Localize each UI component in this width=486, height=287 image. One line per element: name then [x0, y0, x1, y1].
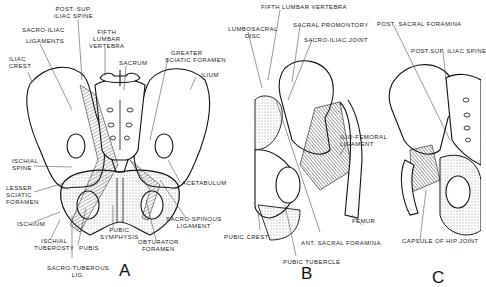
- label-line: SYMPHYSIS: [100, 234, 139, 241]
- label-line: LUMBOSACRAL: [228, 26, 278, 33]
- label-femur: FEMUR: [352, 218, 375, 225]
- label-pubic-crest: PUBIC CREST: [224, 234, 269, 241]
- label-iliac-crest: ILIAC CREST: [9, 56, 31, 70]
- label-line: ILIAC: [9, 56, 31, 63]
- label-line: ISCHIAL: [12, 158, 38, 165]
- label-line: LUMBAR: [89, 36, 124, 43]
- label-ilio-femoral-ligament: ILIO-FEMORAL LIGAMENT: [340, 134, 387, 148]
- label-sacro-iliac-joint: SACRO-ILIAC JOINT: [304, 37, 368, 44]
- label-post-sup-iliac-spine-c: POST.SUP. ILIAC SPINE: [411, 48, 486, 55]
- label-line: FORAMEN: [138, 246, 179, 253]
- label-lesser-sciatic-foramen: LESSER SCIATIC FORAMEN: [6, 185, 39, 206]
- label-line: TUBEROSTY: [34, 245, 74, 252]
- panel-c-drawing: [389, 65, 481, 235]
- panel-a-drawing: [27, 67, 210, 235]
- label-line: LIG.: [47, 272, 109, 279]
- label-lumbosacral-disc: LUMBOSACRAL DISC: [228, 26, 278, 40]
- panel-letter-c: C: [432, 268, 444, 287]
- label-line: ILIAC SPINE: [54, 13, 93, 20]
- label-line: LIGAMENT: [340, 141, 387, 148]
- label-sacro-tuberous-lig: SACRO-TUBEROUS LIG.: [47, 265, 109, 279]
- label-sacro-iliac-ligaments: SACRO-ILIAC LIGAMENTS: [22, 27, 65, 45]
- label-acetabulum: ACETABULUM: [182, 180, 227, 187]
- label-line: SACRO-SPINOUS: [166, 216, 222, 223]
- label-line: LESSER: [6, 185, 39, 192]
- label-line: FORAMEN: [6, 199, 39, 206]
- label-line: PUBIC: [100, 227, 139, 234]
- label-line: SPINE: [12, 165, 38, 172]
- label-ant-sacral-foramina: ANT. SACRAL FORAMINA: [301, 240, 381, 247]
- label-sacral-promontory: SACRAL PROMONTORY: [293, 22, 369, 29]
- label-obturator-foramen: OBTURATOR FORAMEN: [138, 239, 179, 253]
- label-line: VERTEBRA: [89, 43, 124, 50]
- label-line: POST. SUP.: [54, 6, 93, 13]
- label-ischial-spine: ISCHIAL SPINE: [12, 158, 38, 172]
- label-line: ISCHIAL: [34, 238, 74, 245]
- label-capsule-of-hip-joint: CAPSULE OF HIP JOINT: [402, 238, 479, 245]
- label-line: FIFTH: [89, 29, 124, 36]
- label-line: SCIATIC: [6, 192, 39, 199]
- label-line: CREST: [9, 63, 31, 70]
- panel-letter-b: B: [301, 264, 312, 284]
- label-line: SACRO-ILIAC: [22, 27, 65, 34]
- label-line: LIGAMENTS: [26, 38, 65, 45]
- label-line: SCIATIC FORAMEN: [165, 57, 226, 64]
- label-fifth-lumbar-vertebra-a: FIFTH LUMBAR VERTEBRA: [89, 29, 124, 50]
- label-post-sup-iliac-spine-a: POST. SUP. ILIAC SPINE: [54, 6, 93, 20]
- label-pubic-symphysis: PUBIC SYMPHYSIS: [100, 227, 139, 241]
- label-line: ILIO-FEMORAL: [340, 134, 387, 141]
- label-post-sacral-foramina: POST. SACRAL FORAMINA: [377, 21, 462, 28]
- label-sacro-spinous-ligament: SACRO-SPINOUS LIGAMENT: [166, 216, 222, 230]
- panel-b-drawing: [255, 61, 362, 240]
- label-line: SACRO-TUBEROUS: [47, 265, 109, 272]
- label-line: LIGAMENT: [166, 223, 222, 230]
- panel-letter-a: A: [119, 261, 130, 281]
- label-sacrum: SACRUM: [119, 60, 147, 67]
- label-fifth-lumbar-vertebra-b: FIFTH LUMBAR VERTEBRA: [261, 4, 347, 11]
- label-ilium: ILIUM: [201, 72, 219, 79]
- label-line: OBTURATOR: [138, 239, 179, 246]
- label-line: DISC: [228, 33, 278, 40]
- label-pubis: PUBIS: [79, 245, 99, 252]
- label-line: GREATER: [171, 50, 226, 57]
- label-greater-sciatic-foramen: GREATER SCIATIC FORAMEN: [165, 50, 226, 64]
- label-ischium: ISCHIUM: [17, 221, 45, 228]
- label-ischial-tuberosity: ISCHIAL TUBEROSTY: [34, 238, 74, 252]
